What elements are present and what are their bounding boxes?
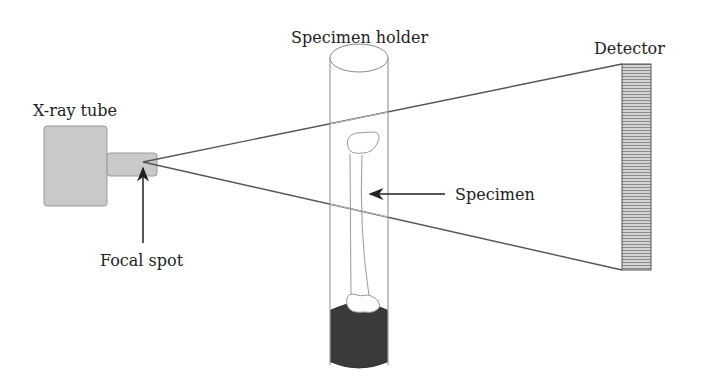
label-specimen: Specimen (455, 185, 535, 204)
detector-panel (622, 64, 651, 270)
xray-setup-diagram: X-ray tube Focal spot Specimen holder Sp… (0, 0, 703, 386)
label-specimen-holder: Specimen holder (291, 28, 429, 47)
specimen-mount (331, 294, 387, 368)
label-xray-tube: X-ray tube (33, 101, 117, 120)
label-focal-spot: Focal spot (100, 251, 184, 270)
xray-tube (44, 126, 157, 206)
xray-beam (143, 64, 622, 270)
label-detector: Detector (594, 39, 665, 58)
